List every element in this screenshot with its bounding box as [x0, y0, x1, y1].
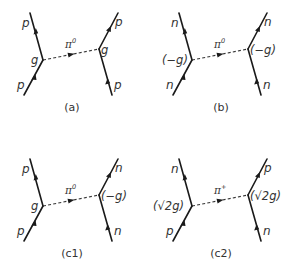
coupling-label: (√2g)	[250, 189, 281, 203]
particle-label: p	[16, 78, 25, 92]
particle-label: p	[263, 161, 272, 175]
arrow-icon	[217, 199, 224, 204]
arrow-icon	[255, 172, 260, 178]
pion-label: π0	[213, 37, 225, 50]
particle-label: n	[264, 15, 272, 29]
particle-label: p	[165, 224, 174, 238]
particle-label: n	[115, 161, 123, 175]
arrow-icon	[217, 53, 224, 58]
particle-label: p	[114, 15, 123, 29]
arrow-icon	[106, 172, 111, 178]
coupling-label: (−g)	[250, 43, 276, 57]
particle-label: n	[166, 78, 174, 92]
particle-label: n	[263, 78, 271, 92]
particle-label: n	[114, 224, 122, 238]
pion-label: π0	[64, 37, 76, 50]
coupling-label: g	[31, 199, 38, 213]
arrow-icon	[68, 199, 75, 204]
pion-label: π0	[64, 183, 76, 196]
particle-label: p	[113, 78, 122, 92]
pion-label: π+	[213, 183, 226, 196]
particle-label: p	[16, 224, 25, 238]
diagram-c1: p p g n n (−g) π0 (c1)	[16, 159, 127, 260]
coupling-label: (−g)	[162, 53, 188, 67]
diagram-caption: (c2)	[210, 247, 232, 260]
diagram-a: p p g p p g π0 (a)	[16, 13, 123, 114]
coupling-label: g	[31, 53, 38, 67]
particle-label: p	[21, 16, 30, 30]
diagram-b: n n (−g) n n (−g) π0 (b)	[162, 13, 276, 114]
diagram-c2: n p (√2g) p n (√2g) π+ (c2)	[153, 159, 281, 260]
arrow-icon	[255, 26, 260, 32]
coupling-label: (√2g)	[153, 199, 184, 213]
diagram-caption: (c1)	[61, 247, 83, 260]
particle-label: n	[171, 16, 179, 30]
diagram-caption: (a)	[64, 101, 79, 114]
arrow-icon	[68, 53, 75, 58]
feynman-diagrams-figure: p p g p p g π0 (a) n n (−g) n n (−g) π0 …	[0, 0, 297, 269]
diagram-caption: (b)	[213, 101, 229, 114]
coupling-label: g	[101, 43, 108, 57]
particle-label: n	[263, 224, 271, 238]
coupling-label: (−g)	[101, 189, 127, 203]
particle-label: p	[21, 162, 30, 176]
particle-label: n	[171, 162, 179, 176]
arrow-icon	[106, 26, 111, 32]
